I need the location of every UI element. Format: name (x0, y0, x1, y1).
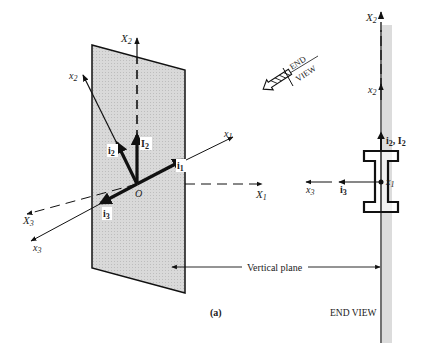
coordinate-transformation-diagram: X2 x2 x1 X1 X3 x3 i2 I2 i1 i3 O END VIEW… (0, 0, 428, 349)
vertical-plane-label: Vertical plane (247, 262, 303, 273)
label-X3: X3 (22, 214, 34, 228)
label-x2: x2 (68, 70, 77, 83)
label-x1: x1 (223, 128, 232, 141)
label-x3: x3 (32, 242, 41, 255)
end-view-label-i3: i3 (340, 184, 347, 197)
origin-label: O (135, 188, 142, 199)
figure-caption: (a) (210, 307, 222, 319)
end-view-label-x2: x2 (367, 84, 376, 97)
label-X1: X1 (255, 188, 267, 202)
end-view-direction-arrow (260, 67, 293, 94)
label-X2: X2 (120, 32, 132, 46)
end-view-label-x3: x3 (305, 184, 314, 197)
end-view-title: END VIEW (330, 308, 377, 318)
end-view-label-X2: X2 (365, 11, 377, 25)
